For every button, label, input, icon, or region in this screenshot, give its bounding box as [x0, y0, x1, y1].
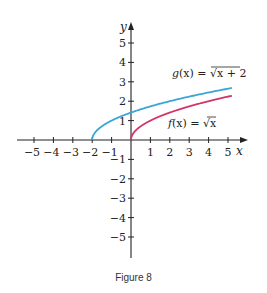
- axes: [17, 22, 248, 258]
- f-equation-label: f(x) = √x: [167, 117, 217, 130]
- g-equation-label: g(x) = √x + 2: [172, 67, 247, 80]
- x-axis-arrow-icon: [240, 137, 248, 143]
- x-tick-label: −4: [43, 146, 59, 159]
- y-axis-label: y: [119, 20, 127, 34]
- curves: [92, 88, 232, 140]
- y-tick-label: −5: [110, 231, 126, 244]
- y-tick-label: −3: [110, 192, 126, 205]
- y-tick-label: −1: [110, 153, 126, 166]
- x-tick-label: −3: [63, 146, 79, 159]
- x-tick-label: 2: [166, 146, 173, 159]
- figure-caption: Figure 8: [0, 272, 267, 283]
- y-tick-label: 3: [119, 76, 126, 89]
- x-tick-label: −5: [24, 146, 40, 159]
- x-tick-label: 5: [225, 146, 232, 159]
- y-tick-label: −2: [110, 173, 126, 186]
- function-graph: −5−4−3−2−112345−5−4−3−2−112345 xyg(x) = …: [0, 0, 267, 293]
- x-axis-label: x: [236, 144, 243, 158]
- x-tick-label: −2: [82, 146, 98, 159]
- curve-g: [92, 88, 232, 140]
- x-tick-label: 4: [205, 146, 212, 159]
- y-tick-label: −4: [110, 212, 126, 225]
- x-tick-label: 1: [147, 146, 154, 159]
- y-tick-label: 2: [119, 95, 126, 108]
- x-tick-label: 3: [186, 146, 193, 159]
- y-tick-label: 5: [119, 37, 126, 50]
- y-axis-arrow-icon: [128, 22, 134, 30]
- y-tick-label: 4: [119, 56, 126, 69]
